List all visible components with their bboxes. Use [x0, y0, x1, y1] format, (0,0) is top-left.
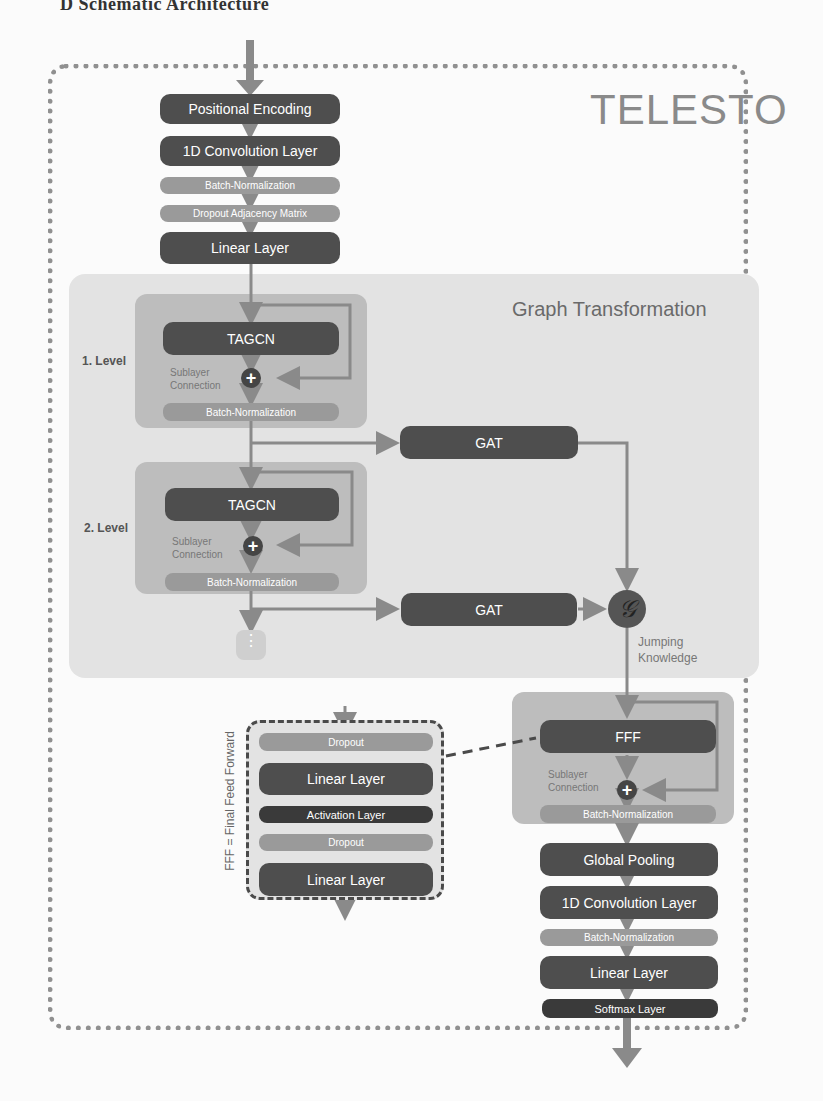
sublayer-connection-label-1: Sublayer Connection — [170, 366, 230, 392]
batch-norm-level-2: Batch-Normalization — [165, 573, 339, 591]
output-conv1d-layer: 1D Convolution Layer — [540, 886, 718, 919]
fff-legend: FFF = Final Feed Forward — [223, 721, 237, 881]
sublayer-connection-label-2: Sublayer Connection — [172, 535, 232, 561]
jumping-knowledge-aggregator-icon: 𝒢 — [608, 590, 646, 628]
softmax-layer: Softmax Layer — [542, 999, 718, 1018]
fff-linear-1: Linear Layer — [259, 763, 433, 795]
dropout-adjacency-layer: Dropout Adjacency Matrix — [160, 205, 340, 222]
level-2-label: 2. Level — [84, 521, 128, 535]
fff-sublayer-line1: Sublayer — [548, 768, 599, 781]
jumping-knowledge-label: Jumping Knowledge — [638, 634, 697, 666]
input-linear-layer: Linear Layer — [160, 232, 340, 264]
more-levels-ellipsis: ⋮ — [236, 630, 266, 660]
gat-level-2: GAT — [401, 593, 577, 626]
output-linear-layer: Linear Layer — [540, 956, 718, 989]
fff-sublayer-line2: Connection — [548, 781, 599, 794]
fff-dropout-1: Dropout — [259, 733, 433, 751]
output-batch-norm-layer: Batch-Normalization — [540, 929, 718, 946]
ellipsis-icon: ⋮ — [243, 636, 259, 645]
add-icon: + — [243, 536, 263, 556]
jumping-knowledge-label-line2: Knowledge — [638, 650, 697, 666]
input-conv1d-layer: 1D Convolution Layer — [160, 136, 340, 166]
input-batch-norm-layer: Batch-Normalization — [160, 177, 340, 194]
fff-sublayer-connection-label: Sublayer Connection — [548, 768, 599, 794]
level-1-label: 1. Level — [82, 354, 126, 368]
tagcn-level-2: TAGCN — [165, 488, 339, 521]
add-icon: + — [241, 368, 261, 388]
gat-level-1: GAT — [400, 426, 578, 459]
positional-encoding-layer: Positional Encoding — [160, 94, 340, 124]
global-pooling-layer: Global Pooling — [540, 843, 718, 876]
fff-dropout-2: Dropout — [259, 834, 433, 851]
jumping-knowledge-label-line1: Jumping — [638, 634, 697, 650]
fff-batch-norm: Batch-Normalization — [540, 805, 716, 823]
fff-activation: Activation Layer — [259, 806, 433, 823]
batch-norm-level-1: Batch-Normalization — [163, 403, 339, 421]
fff-block: FFF — [540, 720, 716, 753]
add-icon: + — [617, 780, 637, 800]
fff-linear-2: Linear Layer — [259, 863, 433, 896]
tagcn-level-1: TAGCN — [163, 322, 339, 355]
